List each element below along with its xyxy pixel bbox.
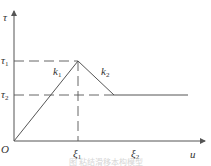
origin-label: O (1, 143, 9, 155)
bond-slip-diagram: τ u O τ1 τ2 ξ1 ξ2 k1 k2 图 粘结滑移本构模型 (0, 0, 211, 166)
tau2-label: τ2 (1, 88, 9, 102)
figure-caption: 图 粘结滑移本构模型 (69, 157, 144, 166)
tau1-label: τ1 (1, 54, 9, 68)
y-axis-label: τ (3, 11, 8, 23)
segment-k1 (14, 61, 78, 141)
k1-label: k1 (53, 65, 62, 79)
x-axis-label: u (190, 148, 196, 160)
k2-label: k2 (101, 65, 110, 79)
